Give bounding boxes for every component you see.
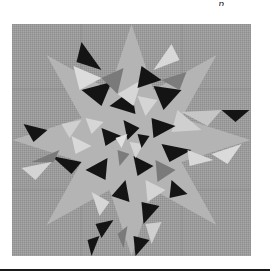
page-header-fragment: p (219, 0, 225, 6)
horizontal-rule (0, 269, 270, 271)
quilt-star-figure (12, 24, 251, 256)
star-pattern-graphic (12, 24, 251, 256)
